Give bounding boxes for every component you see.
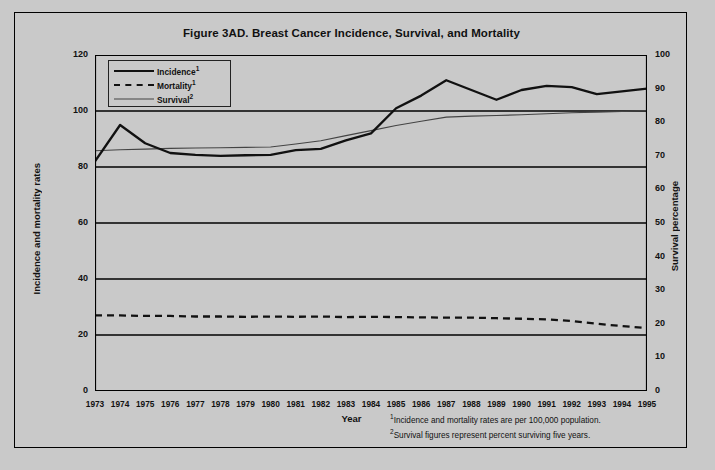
legend-item-incidence: Incidence1 xyxy=(109,64,232,78)
y-axis-left-tick-label: 60 xyxy=(54,217,88,227)
series-line-survival xyxy=(95,110,647,150)
legend-label-incidence: Incidence1 xyxy=(157,65,199,77)
series-line-mortality xyxy=(95,315,647,328)
legend-item-survival: Survival2 xyxy=(109,92,232,106)
legend-label-survival: Survival2 xyxy=(157,93,193,105)
y-axis-left-tick-label: 40 xyxy=(54,273,88,283)
y-axis-right-tick-label: 50 xyxy=(655,217,689,227)
footnote-1: 1Incidence and mortality rates are per 1… xyxy=(390,411,601,426)
y-axis-left-tick-label: 0 xyxy=(54,385,88,395)
y-axis-right-tick-label: 40 xyxy=(655,251,689,261)
figure-frame: Figure 3AD. Breast Cancer Incidence, Sur… xyxy=(14,12,687,448)
chart-legend: Incidence1Mortality1Survival2 xyxy=(108,60,231,107)
footnote-2: 2Survival figures represent percent surv… xyxy=(390,426,601,441)
legend-swatch-survival xyxy=(109,93,157,105)
y-axis-right-tick-label: 10 xyxy=(655,351,689,361)
y-axis-left-title: Incidence and mortality rates xyxy=(31,163,47,294)
legend-label-mortality: Mortality1 xyxy=(157,79,196,91)
y-axis-left-tick-label: 120 xyxy=(54,49,88,59)
legend-swatch-incidence xyxy=(109,65,157,77)
legend-footnote-marker: 1 xyxy=(192,79,196,86)
y-axis-right-tick-label: 60 xyxy=(655,183,689,193)
y-axis-right-tick-label: 80 xyxy=(655,116,689,126)
figure-footnotes: 1Incidence and mortality rates are per 1… xyxy=(390,411,601,441)
footnote-2-text: Survival figures represent percent survi… xyxy=(394,431,591,440)
y-axis-right-tick-label: 30 xyxy=(655,284,689,294)
legend-footnote-marker: 1 xyxy=(196,65,200,72)
y-axis-left-tick-label: 20 xyxy=(54,329,88,339)
chart-title: Figure 3AD. Breast Cancer Incidence, Sur… xyxy=(15,27,688,39)
footnote-1-text: Incidence and mortality rates are per 10… xyxy=(394,416,601,425)
y-axis-right-tick-label: 20 xyxy=(655,318,689,328)
y-axis-left-tick-label: 100 xyxy=(54,105,88,115)
y-axis-right-tick-label: 0 xyxy=(655,385,689,395)
legend-item-mortality: Mortality1 xyxy=(109,78,232,92)
y-axis-right-tick-label: 100 xyxy=(655,49,689,59)
x-axis-tick-label: 1995 xyxy=(632,399,662,409)
legend-swatch-mortality xyxy=(109,79,157,91)
y-axis-right-tick-label: 70 xyxy=(655,150,689,160)
y-axis-left-tick-label: 80 xyxy=(54,161,88,171)
y-axis-right-tick-label: 90 xyxy=(655,83,689,93)
legend-footnote-marker: 2 xyxy=(190,93,194,100)
